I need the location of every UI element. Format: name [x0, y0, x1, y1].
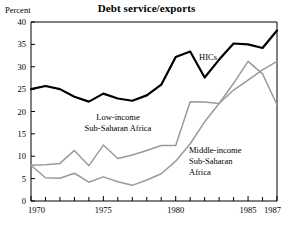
x-tick-label: 1970	[28, 205, 45, 215]
y-axis-ticks: 0510152025303540	[18, 17, 36, 206]
y-tick-label: 5	[22, 174, 26, 184]
y-tick-label: 35	[18, 39, 27, 49]
x-tick-label: 1980	[167, 205, 184, 215]
middle-income-label: Sub-Saharan	[189, 156, 233, 166]
y-tick-label: 25	[18, 84, 27, 94]
chart-figure: Debt service/exports Percent 05101520253…	[0, 0, 293, 231]
middle-income-label: Middle-income	[189, 145, 242, 155]
series-line	[31, 61, 277, 185]
low-income-label: Low-income	[96, 112, 140, 122]
x-axis-ticks: 19701975198019851987	[28, 196, 281, 215]
y-tick-label: 15	[18, 129, 27, 139]
plot-area: 0510152025303540 19701975198019851987 HI…	[0, 0, 293, 231]
series-line	[31, 31, 277, 102]
x-tick-label: 1985	[240, 205, 257, 215]
y-tick-label: 30	[18, 62, 27, 72]
data-series	[31, 31, 277, 186]
y-tick-label: 10	[18, 151, 27, 161]
series-annotations: HICsLow-incomeSub-Saharan AfricaMiddle-i…	[85, 52, 242, 177]
y-tick-label: 20	[18, 107, 27, 117]
x-tick-label: 1975	[95, 205, 112, 215]
low-income-label: Sub-Saharan Africa	[85, 123, 152, 133]
middle-income-label: Africa	[189, 167, 211, 177]
y-tick-label: 40	[18, 17, 27, 27]
x-tick-label: 1987	[264, 205, 281, 215]
hics-label: HICs	[199, 52, 217, 62]
axes	[31, 22, 277, 201]
y-tick-label: 0	[22, 196, 26, 206]
